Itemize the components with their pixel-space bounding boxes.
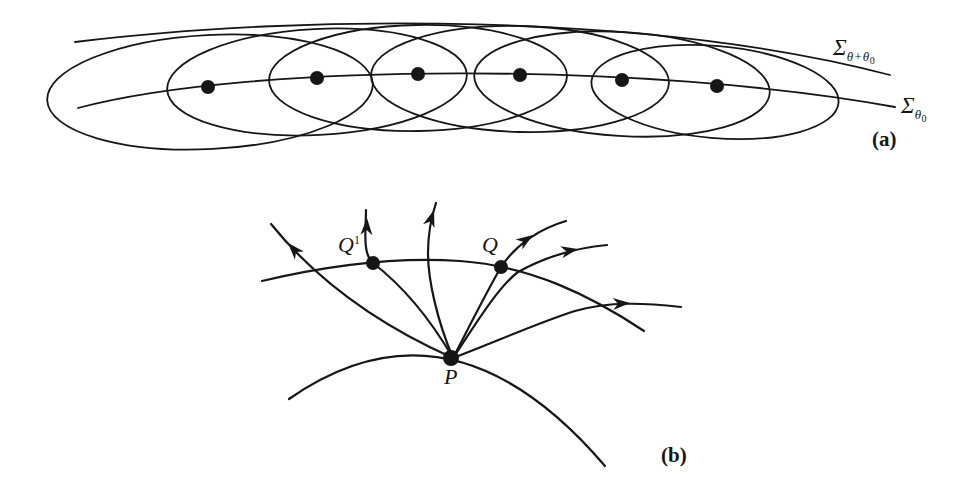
panel-a-tag: (a) [872,129,897,150]
sigma-subsubscript: 0 [870,55,875,66]
geodesic-through-q [453,221,566,358]
sigma-subscript: θ [915,107,922,122]
panel-b-tag: (b) [661,445,687,466]
sigma-lower-curve [78,73,895,108]
label-sigma-theta-plus-theta0: Σθ+θ0 [833,36,875,66]
sigma-symbol: Σ [833,35,847,60]
sigma-upper-curve [75,23,890,75]
sigma-symbol: Σ [901,93,915,118]
arrow-q1-geodesic [360,218,373,235]
arc-through-q1-q [262,260,644,331]
label-q: Q [482,234,498,256]
surface-point-dot-3 [411,67,425,81]
textbook-figure: Σθ+θ0 Σθ0 (a) Q1 Q P (b) [0,0,966,487]
geodesic-up-middle [428,203,453,358]
surface-point-dot-2 [310,71,324,85]
q1-superscript: 1 [354,233,360,247]
point-q-dot [494,260,508,274]
label-p: P [444,366,457,388]
panel-b-arrowheads [284,208,631,310]
surface-point-dot-4 [513,68,527,82]
surface-point-dot-1 [201,80,215,94]
geodesic-right-lower [453,304,681,358]
q1-base: Q [338,232,354,257]
point-q1-dot [366,256,380,270]
label-q1: Q1 [338,234,360,256]
label-sigma-theta0: Σθ0 [901,94,927,124]
sigma-subscript: θ+θ [847,49,870,64]
geodesic-up-left [271,224,453,358]
surface-point-dot-5 [615,73,629,87]
panel-a-dots [201,67,724,94]
surface-point-dot-6 [710,79,724,93]
panel-b-curves [262,203,681,466]
sigma-subsubscript: 0 [922,113,927,124]
